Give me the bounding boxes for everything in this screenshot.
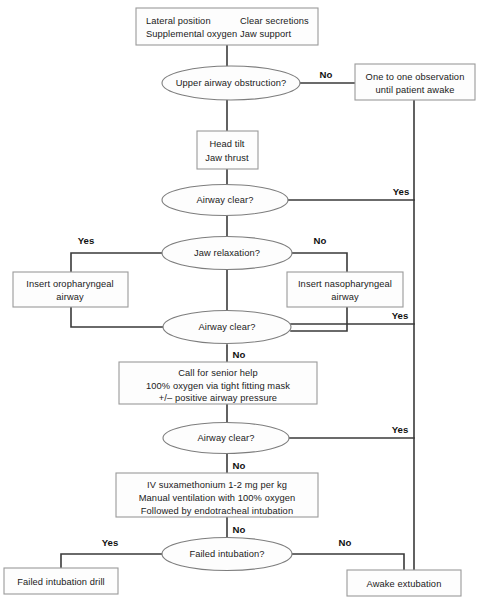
connector-oropharyngeal-to-airwayclear2 [71,307,163,327]
node-head-tilt[interactable]: Head tilt Jaw thrust [197,131,258,169]
airway-clear-1-label: Airway clear? [196,195,253,205]
failed-intubation-drill-label: Failed intubation drill [17,577,105,587]
edge-label-intubation-no: No [233,524,246,535]
initial-measures-right-line-1: Clear secretions [240,16,309,26]
insert-nasopharyngeal-line-1: Insert nasopharyngeal [298,279,392,289]
node-airway-clear-2[interactable]: Airway clear? [163,311,291,344]
edge-label-airwayclear1-yes: Yes [393,186,410,197]
node-airway-clear-3[interactable]: Airway clear? [163,423,289,454]
node-one-to-one-observation[interactable]: One to one observation until patient awa… [355,64,475,100]
senior-help-line-1: Call for senior help [178,368,258,378]
node-upper-airway-obstruction[interactable]: Upper airway obstruction? [162,66,300,100]
node-airway-clear-1[interactable]: Airway clear? [162,185,288,216]
node-initial-measures[interactable]: Lateral position Supplemental oxygen Cle… [136,8,318,45]
failed-intubation-label: Failed intubation? [189,549,264,559]
node-awake-extubation[interactable]: Awake extubation [347,570,461,596]
edge-label-jawrelax-yes: Yes [78,235,95,246]
node-insert-nasopharyngeal[interactable]: Insert nasopharyngeal airway [287,272,403,307]
head-tilt-line-2: Jaw thrust [205,153,249,163]
airway-clear-3-label: Airway clear? [197,433,254,443]
connector-jawrelax-no [292,253,347,272]
awake-extubation-label: Awake extubation [367,579,442,589]
edge-label-airwayclear2-yes: Yes [392,310,409,321]
insert-nasopharyngeal-line-2: airway [331,292,359,302]
insert-oropharyngeal-line-1: Insert oropharyngeal [26,279,113,289]
edge-label-failedintubation-no: No [339,537,352,548]
edge-label-failedintubation-yes: Yes [102,537,119,548]
one-to-one-observation-line-2: until patient awake [376,85,455,95]
edge-label-jawrelax-no: No [314,235,327,246]
edge-label-airwayclear2-no: No [233,349,246,360]
one-to-one-observation-line-1: One to one observation [366,72,465,82]
airway-clear-2-label: Airway clear? [198,322,255,332]
node-failed-intubation[interactable]: Failed intubation? [162,538,292,571]
edge-label-obstruction-no: No [320,69,333,80]
connector-failedintubation-yes [61,554,162,568]
iv-suxamethonium-line-1: IV suxamethonium 1-2 mg per kg [147,480,287,490]
airway-management-flowchart: Lateral position Supplemental oxygen Cle… [0,0,481,601]
initial-measures-left-line-2: Supplemental oxygen [146,29,237,39]
upper-airway-obstruction-label: Upper airway obstruction? [176,78,287,88]
node-senior-help[interactable]: Call for senior help 100% oxygen via tig… [119,362,317,404]
connector-jawrelax-yes [71,253,162,272]
head-tilt-line-1: Head tilt [209,139,244,149]
iv-suxamethonium-line-3: Followed by endotracheal intubation [141,506,293,516]
initial-measures-left-line-1: Lateral position [146,16,211,26]
node-failed-intubation-drill[interactable]: Failed intubation drill [4,568,118,594]
senior-help-line-3: +/– positive airway pressure [159,393,277,403]
insert-oropharyngeal-line-2: airway [56,292,84,302]
connector-nasopharyngeal-to-airwayclear2 [291,307,347,331]
node-iv-suxamethonium[interactable]: IV suxamethonium 1-2 mg per kg Manual ve… [116,473,318,517]
connector-failedintubation-no [292,554,404,570]
edge-label-airwayclear3-no: No [233,460,246,471]
iv-suxamethonium-line-2: Manual ventilation with 100% oxygen [139,493,295,503]
node-insert-oropharyngeal[interactable]: Insert oropharyngeal airway [13,272,128,307]
node-jaw-relaxation[interactable]: Jaw relaxation? [162,237,292,270]
initial-measures-right-line-2: Jaw support [240,29,292,39]
jaw-relaxation-label: Jaw relaxation? [194,248,260,258]
senior-help-line-2: 100% oxygen via tight fitting mask [146,381,290,391]
edge-label-airwayclear3-yes: Yes [392,424,409,435]
